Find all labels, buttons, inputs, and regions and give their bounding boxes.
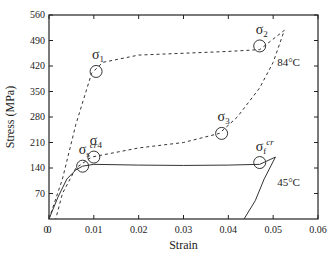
y-tick-label: 560 bbox=[30, 9, 45, 20]
svg-text:0: 0 bbox=[44, 224, 49, 235]
y-tick-label: 420 bbox=[30, 60, 45, 71]
plot-frame bbox=[49, 15, 318, 219]
y-tick-label: 490 bbox=[30, 35, 45, 46]
annotation-label: σ1 bbox=[92, 47, 104, 64]
x-tick-label: 0.03 bbox=[175, 224, 193, 235]
x-tick-label: 0.01 bbox=[85, 224, 103, 235]
annotation-label: σ3 bbox=[218, 109, 231, 126]
temperature-label: 84°C bbox=[277, 56, 300, 68]
y-tick-label: 350 bbox=[30, 86, 45, 97]
x-tick-label: 0.04 bbox=[220, 224, 238, 235]
annotation-label: σ2 bbox=[256, 22, 268, 39]
y-tick-label: 70 bbox=[35, 188, 45, 199]
stress-strain-chart: 00.010.020.030.040.050.06701402102803504… bbox=[0, 0, 333, 255]
x-tick-label: 0.02 bbox=[130, 224, 148, 235]
temperature-label: 45°C bbox=[277, 176, 300, 188]
annotation-label: σfcr bbox=[256, 137, 275, 156]
y-tick-label: 140 bbox=[30, 162, 45, 173]
annotation-circle bbox=[90, 65, 102, 77]
x-tick-label: 0.05 bbox=[264, 224, 282, 235]
x-tick-label: 0.06 bbox=[309, 224, 327, 235]
series-line bbox=[49, 157, 275, 219]
y-axis-label: Stress (MPa) bbox=[3, 86, 17, 148]
x-axis-label: Strain bbox=[169, 238, 198, 252]
y-tick-label: 210 bbox=[30, 137, 45, 148]
series-line bbox=[49, 30, 284, 219]
y-tick-label: 280 bbox=[30, 111, 45, 122]
